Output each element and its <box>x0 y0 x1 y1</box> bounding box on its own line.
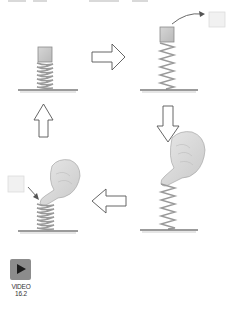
spring-cycle-diagram <box>0 0 231 309</box>
video-label-title: VIDEO <box>6 283 36 290</box>
panel-top-right <box>140 11 225 93</box>
panel-top-left <box>18 47 78 93</box>
panel-bottom-right <box>140 132 205 233</box>
ghost-block <box>209 12 225 27</box>
block <box>38 47 52 62</box>
panel-bottom-left <box>8 160 80 234</box>
hand-icon <box>40 160 80 206</box>
video-label-number: 16.2 <box>6 290 36 297</box>
spring-compressed <box>37 204 54 229</box>
arrow-right-icon <box>92 44 125 70</box>
play-icon <box>17 264 26 274</box>
spring-extended <box>160 43 174 89</box>
launch-trajectory-arrow <box>172 14 202 24</box>
arrow-left-icon <box>92 189 126 213</box>
trajectory-arrowhead-icon <box>199 11 205 17</box>
block <box>160 27 174 42</box>
video-play-button[interactable] <box>10 259 31 280</box>
video-label: VIDEO 16.2 <box>6 283 36 297</box>
spring-compressed <box>37 63 53 88</box>
arrow-up-icon <box>34 104 53 137</box>
spring-extended <box>161 184 175 229</box>
ghost-block <box>8 176 24 192</box>
